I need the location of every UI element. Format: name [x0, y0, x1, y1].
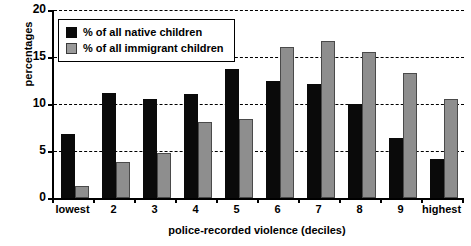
- bar-chart-figure: percentages 05101520 lowest23456789highe…: [0, 0, 471, 246]
- bar: [198, 122, 212, 198]
- y-tick-label: 0: [39, 190, 46, 204]
- y-tick-label: 10: [33, 96, 46, 110]
- bar: [266, 81, 280, 198]
- bar: [184, 94, 198, 198]
- bar: [403, 73, 417, 198]
- bar-group: [382, 10, 423, 198]
- legend-swatch-immigrant: [66, 43, 77, 54]
- legend-item: % of all immigrant children: [66, 40, 224, 56]
- bar: [307, 84, 321, 198]
- x-tick-label: 8: [339, 203, 380, 215]
- bar: [430, 159, 444, 198]
- bar: [61, 134, 75, 198]
- bar: [239, 119, 253, 198]
- legend-swatch-native: [66, 27, 77, 38]
- bar: [116, 162, 130, 198]
- bar-group: [300, 10, 341, 198]
- legend-label: % of all immigrant children: [83, 42, 224, 54]
- bar-group: [259, 10, 300, 198]
- bar-group: [423, 10, 464, 198]
- bar: [225, 69, 239, 198]
- bar: [348, 104, 362, 198]
- chart-legend: % of all native children% of all immigra…: [58, 19, 235, 62]
- x-tick-label: 9: [380, 203, 421, 215]
- bar: [143, 99, 157, 198]
- legend-item: % of all native children: [66, 24, 224, 40]
- y-axis-title: percentages: [22, 0, 34, 134]
- bar: [321, 41, 335, 198]
- x-axis-title: police-recorded violence (deciles): [52, 224, 462, 236]
- x-axis-tick-labels: lowest23456789highest: [52, 203, 462, 215]
- x-tick-label: 3: [134, 203, 175, 215]
- legend-label: % of all native children: [83, 26, 202, 38]
- bar: [75, 186, 89, 198]
- x-tick-label: 7: [298, 203, 339, 215]
- y-tick-label: 5: [39, 143, 46, 157]
- x-tick-label: lowest: [52, 203, 93, 215]
- x-tick-label: 2: [93, 203, 134, 215]
- bar-group: [341, 10, 382, 198]
- y-tick-label: 20: [33, 2, 46, 16]
- x-tick-label: highest: [421, 203, 462, 215]
- x-tick-label: 4: [175, 203, 216, 215]
- bar: [102, 93, 116, 198]
- bar: [444, 99, 458, 198]
- bar: [389, 138, 403, 198]
- bar: [280, 47, 294, 198]
- y-tick-label: 15: [33, 49, 46, 63]
- x-tick-mark: [462, 198, 464, 203]
- x-tick-label: 5: [216, 203, 257, 215]
- bar: [362, 52, 376, 198]
- bar: [157, 153, 171, 198]
- x-tick-label: 6: [257, 203, 298, 215]
